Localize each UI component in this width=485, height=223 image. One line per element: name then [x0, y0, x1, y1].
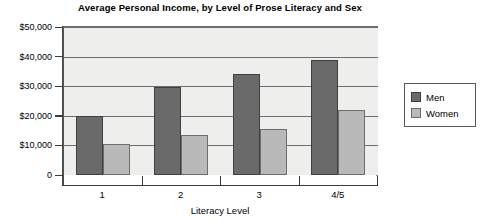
x-axis-tick — [377, 176, 378, 185]
x-axis-label-3: 3 — [239, 189, 279, 200]
bar-women-level-4-5 — [338, 110, 365, 175]
chart-title: Average Personal Income, by Level of Pro… — [63, 2, 377, 14]
y-axis-label: $30,000 — [0, 81, 52, 91]
x-axis-title: Literacy Level — [63, 205, 377, 216]
y-axis-tick — [55, 115, 63, 116]
bar-women-level-3 — [260, 129, 287, 175]
bar-men-level-3 — [233, 74, 260, 175]
x-axis-tick — [299, 176, 300, 185]
bar-men-level-4-5 — [311, 60, 338, 175]
gridline — [64, 57, 378, 58]
y-axis-tick — [55, 27, 63, 28]
y-axis-label: $10,000 — [0, 140, 52, 150]
y-axis-tick — [55, 86, 63, 87]
legend-label-women: Women — [426, 108, 459, 119]
y-axis-label: $40,000 — [0, 52, 52, 62]
x-axis-line — [62, 185, 378, 186]
y-axis-tick — [55, 175, 63, 176]
gridline — [64, 27, 378, 28]
x-axis-tick — [220, 176, 221, 185]
y-axis-tick — [55, 56, 63, 57]
y-axis-label: 0 — [0, 170, 52, 180]
legend-swatch-women-icon — [411, 108, 421, 118]
legend-item-women[interactable]: Women — [411, 105, 475, 121]
y-axis-label: $20,000 — [0, 111, 52, 121]
chart-figure: Average Personal Income, by Level of Pro… — [0, 0, 485, 223]
x-axis-tick — [142, 176, 143, 185]
bar-women-level-2 — [181, 135, 208, 175]
bar-women-level-1 — [103, 144, 130, 175]
legend-swatch-men-icon — [411, 92, 421, 102]
x-axis-label-1: 1 — [82, 189, 122, 200]
bar-men-level-1 — [76, 116, 103, 175]
legend-label-men: Men — [426, 92, 444, 103]
y-axis-tick — [55, 145, 63, 146]
x-axis-label-2: 2 — [161, 189, 201, 200]
chart-legend: Men Women — [404, 83, 476, 127]
bar-men-level-2 — [154, 87, 181, 175]
x-axis-label-4-5: 4/5 — [318, 189, 358, 200]
y-axis-label: $50,000 — [0, 22, 52, 32]
legend-item-men[interactable]: Men — [411, 89, 475, 105]
